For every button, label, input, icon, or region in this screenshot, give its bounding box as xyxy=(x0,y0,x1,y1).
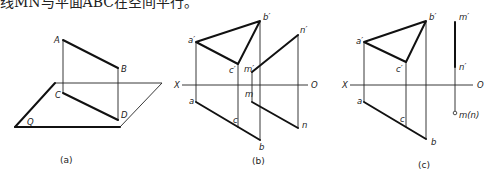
plane-q-edge-left xyxy=(15,83,55,127)
label-a-prime: a′ xyxy=(188,35,195,45)
panel-b: X O a′ b′ c′ m′ n′ a c b m n (b) xyxy=(173,12,318,166)
projection-diagrams: A B C D Q (a) X O a′ b′ c′ m′ n′ a c b m… xyxy=(0,0,493,181)
label-b: b xyxy=(259,142,264,152)
label-D: D xyxy=(121,110,128,120)
triangle-abc-front xyxy=(196,21,260,64)
label-n-prime: n′ xyxy=(300,25,307,35)
label-a-prime: a′ xyxy=(356,36,363,46)
label-O: O xyxy=(311,80,318,90)
line-cd xyxy=(63,93,118,120)
label-c-prime: c′ xyxy=(396,64,403,74)
label-n: n xyxy=(302,120,307,130)
label-A: A xyxy=(53,35,60,45)
label-C: C xyxy=(55,90,61,100)
label-a: a xyxy=(189,96,194,106)
triangle-abc-front xyxy=(364,21,426,62)
label-m-prime: m′ xyxy=(459,12,469,22)
panel-a: A B C D Q (a) xyxy=(15,35,162,165)
label-c: c xyxy=(233,115,238,125)
label-n-prime: n′ xyxy=(459,62,466,72)
label-a: a xyxy=(357,96,362,106)
label-Q: Q xyxy=(27,117,34,127)
label-X: X xyxy=(173,80,180,90)
label-X: X xyxy=(341,80,348,90)
caption-c: (c) xyxy=(418,160,430,170)
caption-a: (a) xyxy=(60,155,73,165)
label-b: b xyxy=(431,137,436,147)
line-mn-top xyxy=(252,102,298,128)
label-m: m xyxy=(245,89,253,99)
label-c-prime: c′ xyxy=(229,65,236,75)
line-ab-top xyxy=(364,102,426,139)
caption-b: (b) xyxy=(252,156,265,166)
label-c: c xyxy=(400,114,405,124)
panel-c: X O a′ b′ c′ m′ n′ a c b m(n) (c) xyxy=(341,12,484,170)
label-m-n: m(n) xyxy=(459,110,479,120)
label-m-prime: m′ xyxy=(244,64,254,74)
line-mn-front xyxy=(252,35,298,72)
line-ab-top xyxy=(196,102,260,140)
label-b-prime: b′ xyxy=(263,12,270,22)
label-b-prime: b′ xyxy=(429,12,436,22)
line-ab xyxy=(63,40,118,68)
label-O: O xyxy=(477,80,484,90)
point-mn-top xyxy=(453,111,457,115)
label-B: B xyxy=(121,64,127,74)
